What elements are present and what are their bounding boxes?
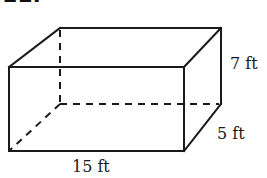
top-right-edge: [184, 28, 221, 67]
width-label: 5 ft: [217, 126, 245, 142]
top-left-edge: [9, 28, 60, 67]
front-face: [9, 67, 184, 151]
height-label: 7 ft: [230, 56, 258, 72]
prism-solid-edges: [9, 28, 221, 151]
rectangular-prism-diagram: [0, 0, 267, 178]
hidden-bottom-left-edge: [9, 104, 60, 151]
prism-hidden-edges: [9, 30, 219, 151]
bottom-right-edge: [184, 104, 221, 151]
length-label: 15 ft: [72, 159, 110, 175]
